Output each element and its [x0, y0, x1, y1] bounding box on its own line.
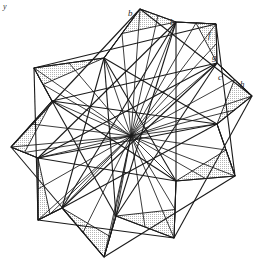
- figure-container: bbfgch y: [0, 0, 262, 265]
- vertex-label-c: c: [218, 72, 222, 82]
- star-polygon-figure: bbfgch y: [0, 0, 262, 265]
- vertex-label-g: g: [212, 52, 217, 62]
- vertex-label-h: h: [240, 79, 245, 89]
- vertex-label-b: b: [170, 17, 175, 27]
- vertex-label-b: b: [128, 8, 133, 18]
- corner-mark-label: y: [2, 2, 7, 11]
